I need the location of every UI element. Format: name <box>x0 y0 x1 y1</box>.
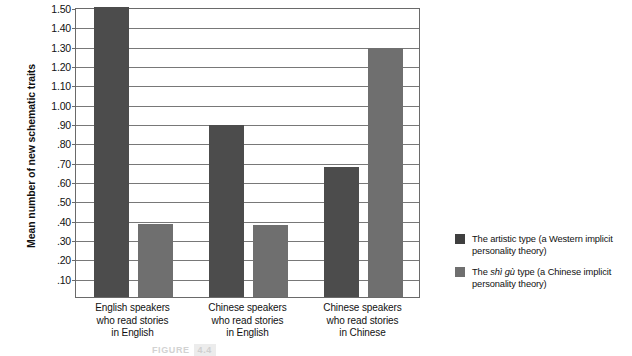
y-axis-tick-label: 1.30 <box>51 42 71 54</box>
y-axis-tick-mark <box>72 144 76 145</box>
bar <box>94 7 129 297</box>
legend-item-label: The artistic type (a Western implicit pe… <box>472 233 627 257</box>
y-axis-tick-mark <box>72 164 76 165</box>
bar <box>253 225 288 297</box>
y-axis-tick-mark <box>72 67 76 68</box>
y-axis-tick-mark <box>72 260 76 261</box>
y-axis-tick-label: 1.00 <box>51 100 71 112</box>
legend-term-italic: shì gù <box>490 267 515 277</box>
y-axis-tick-mark <box>72 202 76 203</box>
y-axis-tick-label: .20 <box>57 254 71 266</box>
legend-swatch-icon <box>455 267 465 277</box>
y-axis-tick-mark <box>72 28 76 29</box>
y-axis-tick-mark <box>72 241 76 242</box>
legend-item-label: The shì gù type (a Chinese implicit pers… <box>472 266 627 290</box>
y-axis-tick-mark <box>72 106 76 107</box>
x-axis-category-label: Chinese speakerswho read storiesin Chine… <box>303 302 423 340</box>
y-axis-tick-label: .40 <box>57 216 71 228</box>
figure-caption-number: 4.4 <box>194 344 216 356</box>
legend-item: The artistic type (a Western implicit pe… <box>455 233 627 257</box>
y-axis-tick-mark <box>72 125 76 126</box>
category-label-line: in English <box>188 327 308 340</box>
y-axis-title: Mean number of new schematic traits <box>25 21 37 291</box>
y-axis-tick-mark <box>72 280 76 281</box>
bar <box>138 224 173 297</box>
category-label-line: who read stories <box>188 315 308 328</box>
y-axis-tick-label: 1.40 <box>51 22 71 34</box>
category-label-line: Chinese speakers <box>303 302 423 315</box>
plot-area: 1.501.401.301.201.101.00.90.80.70.60.50.… <box>75 8 420 298</box>
bar <box>209 125 244 297</box>
x-axis-category-label: Chinese speakerswho read storiesin Engli… <box>188 302 308 340</box>
y-axis-tick-label: .90 <box>57 119 71 131</box>
y-axis-tick-label: .60 <box>57 177 71 189</box>
x-axis-category-label: English speakerswho read storiesin Engli… <box>73 302 193 340</box>
bar <box>324 167 359 297</box>
y-axis-tick-mark <box>72 9 76 10</box>
y-axis-tick-label: .10 <box>57 274 71 286</box>
category-label-line: in English <box>73 327 193 340</box>
category-label-line: English speakers <box>73 302 193 315</box>
y-axis-tick-label: .70 <box>57 158 71 170</box>
y-axis-tick-label: 1.50 <box>51 3 71 15</box>
legend-swatch-icon <box>455 234 465 244</box>
y-axis-tick-mark <box>72 48 76 49</box>
category-label-line: Chinese speakers <box>188 302 308 315</box>
chart-legend: The artistic type (a Western implicit pe… <box>455 233 627 299</box>
figure-caption-label: FIGURE <box>152 345 190 355</box>
y-axis-tick-label: 1.20 <box>51 61 71 73</box>
y-axis-tick-mark <box>72 86 76 87</box>
y-axis-tick-label: .80 <box>57 138 71 150</box>
bar <box>368 48 403 297</box>
y-axis-tick-label: 1.10 <box>51 80 71 92</box>
y-axis-tick-mark <box>72 222 76 223</box>
category-label-line: in Chinese <box>303 327 423 340</box>
legend-item: The shì gù type (a Chinese implicit pers… <box>455 266 627 290</box>
category-label-line: who read stories <box>303 315 423 328</box>
y-axis-tick-mark <box>72 183 76 184</box>
figure-caption: FIGURE4.4 <box>152 344 216 356</box>
category-label-line: who read stories <box>73 315 193 328</box>
y-axis-tick-label: .50 <box>57 196 71 208</box>
y-axis-tick-label: .30 <box>57 235 71 247</box>
